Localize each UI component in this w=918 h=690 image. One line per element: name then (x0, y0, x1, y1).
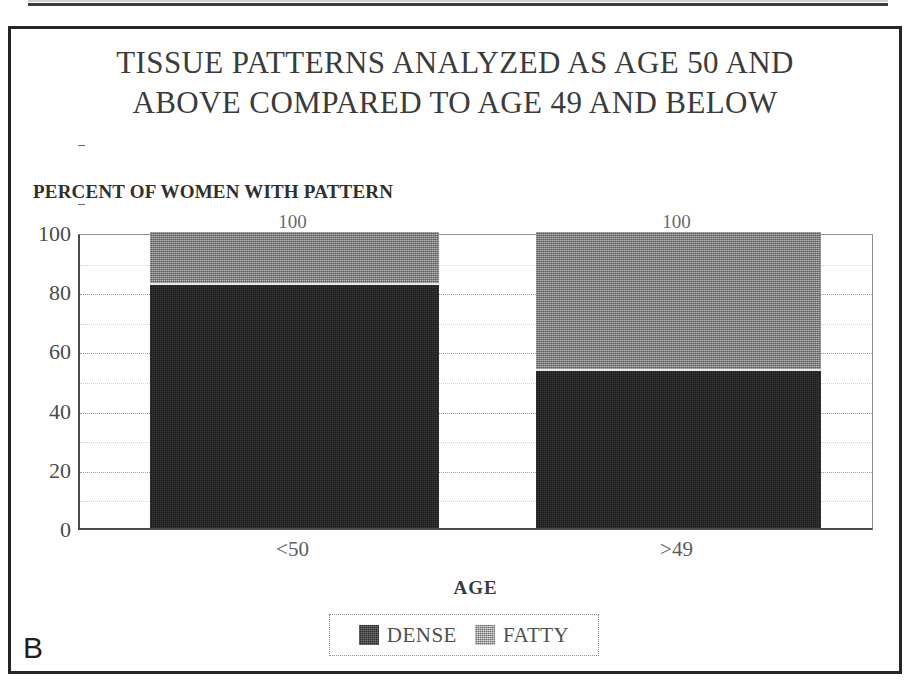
y-minor-tick-50 (78, 145, 85, 146)
bar-segment-dense-gt49[interactable] (536, 371, 821, 528)
scan-edge-artifact (0, 0, 918, 10)
legend-label-dense: DENSE (387, 623, 457, 648)
bar-segment-fatty-lt50[interactable] (150, 232, 439, 285)
x-tick-lt50: <50 (148, 537, 437, 562)
bar-stack-gt49[interactable] (536, 232, 821, 528)
x-tick-gt49: >49 (534, 537, 819, 562)
chart-legend: DENSE FATTY (329, 614, 599, 656)
bar-segment-fatty-gt49[interactable] (536, 232, 821, 371)
y-tick-80: 80 (13, 280, 71, 306)
y-axis-tick-labels: 100 80 60 40 20 0 (11, 234, 71, 530)
x-axis-title: AGE (78, 577, 873, 599)
figure-frame: TISSUE PATTERNS ANALYZED AS AGE 50 AND A… (8, 26, 902, 674)
y-minor-tick-30 (78, 204, 85, 205)
bar-segment-dense-lt50[interactable] (150, 285, 439, 528)
bar-total-label-lt50: 100 (148, 211, 437, 233)
legend-swatch-dense-icon (359, 625, 379, 645)
y-tick-40: 40 (13, 399, 71, 425)
bar-stack-lt50[interactable] (150, 232, 439, 528)
y-tick-0: 0 (13, 517, 71, 543)
legend-swatch-fatty-icon (475, 625, 495, 645)
legend-entry-fatty[interactable]: FATTY (475, 623, 569, 648)
y-tick-60: 60 (13, 339, 71, 365)
panel-letter-label: B (23, 631, 43, 665)
legend-label-fatty: FATTY (503, 623, 569, 648)
plot-area (78, 234, 873, 530)
legend-entry-dense[interactable]: DENSE (359, 623, 457, 648)
bar-total-label-gt49: 100 (534, 211, 819, 233)
y-tick-100: 100 (13, 221, 71, 247)
y-tick-20: 20 (13, 458, 71, 484)
plot-wrapper: 100 80 60 40 20 0 (11, 29, 905, 677)
